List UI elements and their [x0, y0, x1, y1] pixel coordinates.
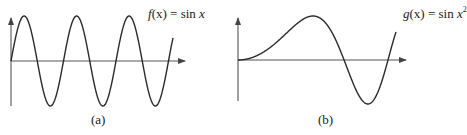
fn-exponent: 2	[463, 5, 467, 14]
panel-b-caption: (b)	[318, 112, 333, 128]
fn-arg: (x)	[152, 6, 167, 21]
fn-eq: = sin	[167, 6, 199, 21]
fn-arg: (x)	[410, 6, 425, 21]
panel-b-axes	[238, 18, 406, 101]
fn-eq: = sin	[425, 6, 457, 21]
panel-b-function-label: g(x) = sin x2	[403, 6, 467, 22]
fn-var: x	[199, 6, 205, 21]
panel-a-caption: (a)	[91, 112, 105, 128]
panel-a-function-label: f(x) = sin x	[148, 6, 205, 22]
